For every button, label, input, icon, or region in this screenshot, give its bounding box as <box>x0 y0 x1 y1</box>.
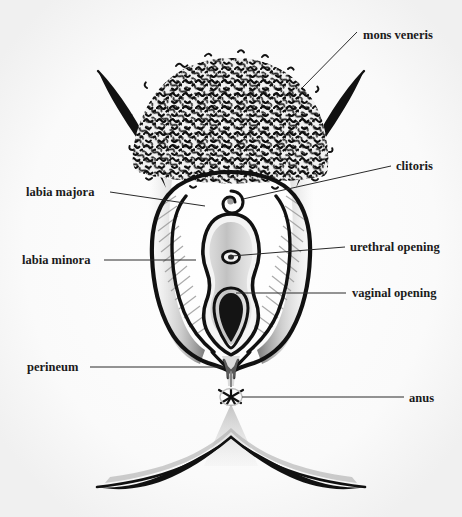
label-clitoris: clitoris <box>396 159 433 173</box>
label-mons-veneris: mons veneris <box>363 28 433 42</box>
label-labia-majora: labia majora <box>26 185 95 199</box>
urethral-opening <box>223 251 240 263</box>
label-perineum: perineum <box>27 360 79 374</box>
label-urethral-opening: urethral opening <box>350 240 440 254</box>
label-anus: anus <box>409 391 434 405</box>
anatomy-figure: mons veneris clitoris urethral opening v… <box>0 0 462 517</box>
label-labia-minora: labia minora <box>22 253 91 267</box>
anatomy-illustration: mons veneris clitoris urethral opening v… <box>0 0 462 517</box>
label-vaginal-opening: vaginal opening <box>352 286 437 300</box>
